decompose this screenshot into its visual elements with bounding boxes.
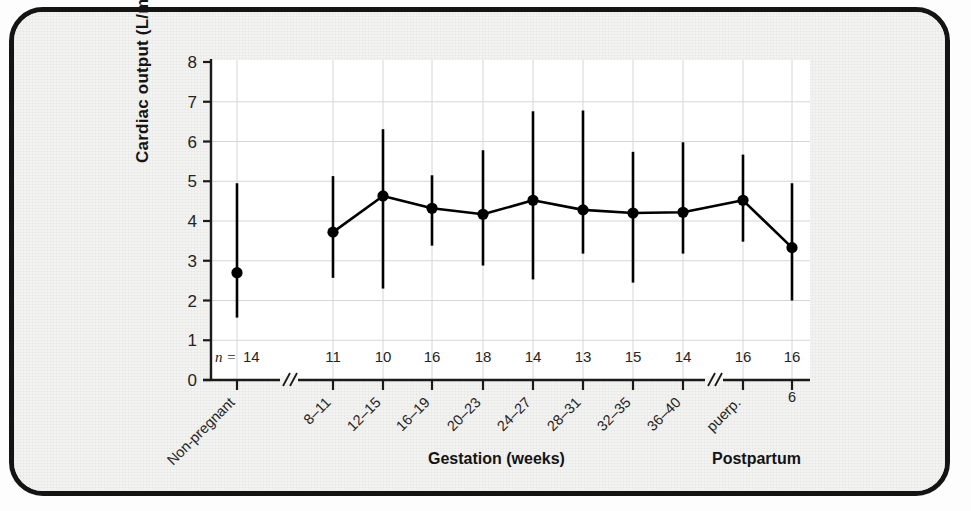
n-row-prefix: n = [215,349,236,365]
data-point-marker [627,207,638,218]
data-point-marker [577,204,588,215]
y-axis-ticks: 012345678 [188,53,211,390]
chart-canvas: 012345678 n =1411101618141315141616 Non-… [0,0,971,511]
y-tick-label: 1 [188,331,197,350]
y-tick-label: 6 [188,133,197,152]
n-value: 16 [784,348,801,365]
y-tick-label: 7 [188,93,197,112]
data-point-marker [677,207,688,218]
n-value: 18 [475,348,492,365]
category-label: 16–19 [393,394,433,434]
x-axis-title-gestation: Gestation (weeks) [428,450,565,468]
data-point-marker [426,203,437,214]
y-tick-label: 2 [188,292,197,311]
category-label: Non-pregnant [164,394,238,468]
y-tick-label: 8 [188,53,197,72]
y-tick-label: 4 [188,212,197,231]
data-point-marker [377,190,388,201]
plot-background [211,60,810,380]
figure-page: 012345678 n =1411101618141315141616 Non-… [0,0,971,511]
y-tick-label: 0 [188,371,197,390]
category-label: 8–11 [300,394,333,427]
y-tick-label: 5 [188,172,197,191]
n-value: 10 [375,348,392,365]
n-value: 14 [675,348,692,365]
category-label: 32–35 [594,394,634,434]
category-label: 28–31 [544,394,584,434]
category-label: 24–27 [494,394,534,434]
category-label: 6 [788,389,796,405]
cardiac-output-chart: 012345678 n =1411101618141315141616 Non-… [0,0,971,511]
n-value: 15 [625,348,642,365]
data-point-marker [477,209,488,220]
n-value: 13 [575,348,592,365]
data-point-marker [786,242,797,253]
n-value: 16 [424,348,441,365]
n-value: 14 [525,348,542,365]
data-point-marker [231,267,242,278]
n-value: 14 [243,348,260,365]
category-label: puerp. [703,394,743,434]
data-point-marker [527,195,538,206]
category-label: 36–40 [644,394,684,434]
n-value: 11 [325,348,341,365]
data-point-marker [737,195,748,206]
y-tick-label: 3 [188,252,197,271]
category-label: 20–23 [444,394,484,434]
n-value: 16 [735,348,752,365]
category-label: 12–15 [344,394,384,434]
data-point-marker [327,227,338,238]
x-axis-title-postpartum: Postpartum [712,450,801,468]
